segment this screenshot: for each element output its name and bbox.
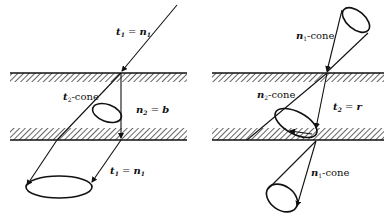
label-upper-cone: n1-cone [296, 30, 335, 42]
label-normal: n2 = b [136, 104, 169, 116]
incident-ray [122, 5, 177, 71]
t2-cone-ellipse [90, 100, 124, 126]
dual-cone-diagram: t1 = n1 t2-cone n2 = b t1 = n1 [0, 0, 389, 219]
label-incident: t1 = n1 [116, 26, 151, 38]
right-panel: n1-cone n2-cone t2 = r n1-cone [212, 3, 384, 218]
label-t2-cone: t2-cone [63, 91, 99, 103]
lower-surface-band-right [212, 128, 384, 140]
lower-surface-band-left [10, 128, 187, 140]
label-middle-cone: n2-cone [257, 89, 296, 101]
label-transmitted: t1 = n1 [110, 165, 145, 177]
left-panel: t1 = n1 t2-cone n2 = b t1 = n1 [10, 5, 187, 198]
upper-cone-ellipse [338, 3, 374, 37]
lower-cone-ellipse [261, 178, 303, 217]
label-tangent: t2 = r [333, 101, 363, 113]
upper-surface-band-left [10, 73, 187, 82]
upper-surface-band-right [212, 73, 384, 82]
label-lower-cone: n1-cone [311, 167, 350, 179]
large-cone-ellipse [26, 176, 92, 198]
